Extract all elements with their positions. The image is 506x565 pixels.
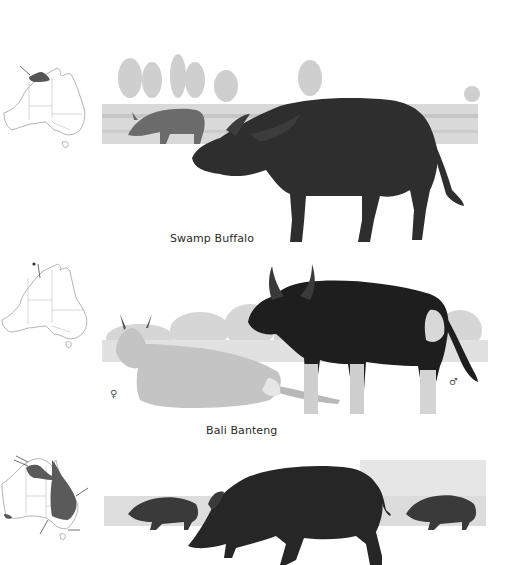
range-shading-sw xyxy=(4,514,12,519)
australia-outline xyxy=(2,264,87,339)
white-stocking xyxy=(420,370,436,414)
female-symbol: ♀ xyxy=(110,388,117,399)
buffalo-tail xyxy=(434,146,464,206)
illustration-swamp-buffalo xyxy=(100,50,480,250)
distribution-map-feral-pig xyxy=(0,440,100,565)
banteng-horn-left xyxy=(269,266,284,300)
distribution-map-bali-banteng xyxy=(0,250,100,350)
background-trees xyxy=(118,54,480,102)
state-borders xyxy=(29,78,82,130)
state-borders xyxy=(28,270,84,332)
white-stocking xyxy=(304,364,318,414)
pointer-arrow xyxy=(40,520,48,534)
distribution-map-swamp-buffalo xyxy=(0,50,100,150)
main-pig xyxy=(188,466,391,565)
illustration-bali-banteng xyxy=(100,260,490,420)
species-caption: Swamp Buffalo xyxy=(170,232,254,245)
range-point xyxy=(32,262,35,265)
white-stocking xyxy=(350,364,364,414)
range-shading-east xyxy=(51,460,77,520)
illustration-feral-pig xyxy=(100,440,490,565)
tasmania-outline xyxy=(60,534,65,540)
pointer-arrow xyxy=(76,488,88,496)
range-shading-north xyxy=(26,465,52,480)
tasmania-outline xyxy=(66,342,71,348)
male-symbol: ♂ xyxy=(449,376,458,387)
pointer-arrow xyxy=(20,66,30,75)
pointer-arrow xyxy=(16,456,28,462)
tasmania-outline xyxy=(62,142,68,148)
species-caption: Bali Banteng xyxy=(206,424,277,437)
